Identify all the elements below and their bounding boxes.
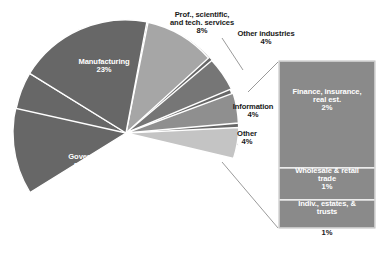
pie-chart-figure: Prof., scientific, and tech. services 8%… bbox=[0, 0, 377, 255]
slice-label-manufacturing: Manufacturing 23% bbox=[54, 58, 154, 74]
slice-label-information: Information 4% bbox=[222, 103, 284, 119]
bar-label-indiv: Indiv., estates, & trusts bbox=[280, 200, 374, 216]
bar-label-wholesale: Wholesale & retail trade 1% bbox=[280, 167, 374, 192]
bar-label-finance: Finance, insurance, real est. 2% bbox=[280, 88, 374, 113]
leader-breakout-bottom bbox=[222, 162, 278, 228]
leader-breakout-top bbox=[248, 62, 278, 92]
chart-canvas bbox=[0, 0, 377, 255]
bar-label-indiv-value: 1% bbox=[280, 229, 374, 237]
slice-label-government: Government/govt. related entities 57% bbox=[32, 153, 168, 178]
bar-segment-finance bbox=[279, 61, 375, 168]
slice-label-other-industries: Other industries 4% bbox=[224, 30, 308, 46]
slice-label-other: Other 4% bbox=[222, 130, 272, 146]
